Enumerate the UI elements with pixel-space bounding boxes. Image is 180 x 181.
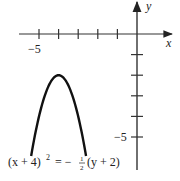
equation-exponent: 2 [46,153,50,162]
equation-left: (x + 4) [8,155,41,169]
x-tick-label-neg5: −5 [28,42,41,56]
equation-frac-num: 1 [80,155,84,163]
equation-label: (x + 4) 2 = − 1 2 (y + 2) [8,153,120,172]
equation-equals: = − [55,155,72,169]
y-tick-label-neg5: −5 [114,130,127,144]
parabola-graph: x y −5 −5 (x + 4) 2 = − 1 2 (y + 2) [0,0,180,181]
x-axis-label: x [165,36,172,50]
equation-right: (y + 2) [87,155,120,169]
equation-frac-den: 2 [80,164,84,172]
parabola-curve [31,75,86,156]
y-axis-label: y [145,0,152,13]
svg-text:(x + 4): (x + 4) [8,155,41,169]
